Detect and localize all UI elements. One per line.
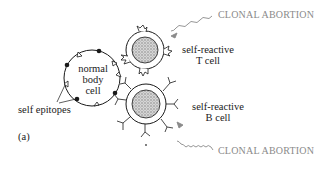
t-cell-label-line1: self-reactive — [176, 44, 240, 55]
b-cell-label-line2: B cell — [186, 112, 250, 123]
body-cell-label-line1: normal — [74, 63, 112, 74]
b-cell — [114, 77, 178, 137]
b-cell-label-line1: self-reactive — [186, 101, 250, 112]
clonal-abortion-label-top: CLONAL ABORTION — [218, 9, 314, 20]
panel-label: (a) — [18, 131, 30, 142]
clonal-abortion-arrow-top — [171, 16, 212, 38]
self-epitopes-label: self epitopes — [18, 104, 71, 115]
stray-dot — [145, 144, 147, 146]
body-cell-label-line2: body — [74, 74, 112, 85]
body-cell-label-line3: cell — [74, 85, 112, 96]
clonal-abortion-arrow-bottom — [177, 122, 213, 150]
t-cell — [121, 25, 172, 76]
t-cell-label-line2: T cell — [176, 55, 240, 66]
clonal-abortion-label-bottom: CLONAL ABORTION — [218, 145, 314, 156]
